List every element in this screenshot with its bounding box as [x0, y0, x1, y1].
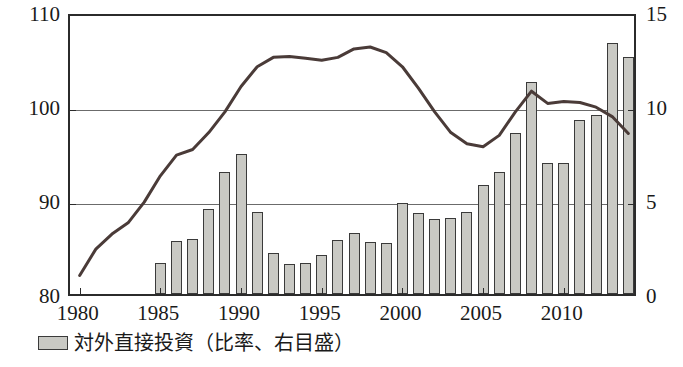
x-axis-tick	[80, 288, 81, 294]
y-axis-right-label: 15	[646, 4, 683, 25]
y-axis-right-label: 10	[646, 98, 683, 119]
plot-area	[68, 14, 636, 296]
y-axis-right-label: 5	[646, 192, 683, 213]
x-axis-label: 1985	[123, 303, 193, 324]
y-axis-left-label: 110	[4, 4, 60, 25]
x-axis-label: 2010	[527, 303, 597, 324]
x-axis-label: 1980	[43, 303, 113, 324]
x-axis-tick	[564, 288, 565, 294]
y-axis-left-tick	[70, 110, 76, 111]
legend-swatch-bar	[38, 336, 68, 350]
legend: 対外直接投資（比率、右目盛）	[38, 333, 354, 353]
y-axis-left-label: 90	[4, 192, 60, 213]
x-axis-label: 1990	[204, 303, 274, 324]
x-axis-tick	[241, 288, 242, 294]
y-axis-right-label: 0	[646, 286, 683, 307]
x-axis-label: 1995	[285, 303, 355, 324]
y-axis-left-tick	[70, 204, 76, 205]
x-axis-tick	[483, 288, 484, 294]
x-axis-tick	[402, 288, 403, 294]
x-axis-tick	[322, 288, 323, 294]
y-axis-left-label: 100	[4, 98, 60, 119]
x-axis-label: 2000	[365, 303, 435, 324]
x-axis-label: 2005	[446, 303, 516, 324]
chart-figure: 8090100110 051015 1980198519901995200020…	[0, 0, 683, 367]
y-axis-right-tick	[628, 110, 634, 111]
x-axis-tick	[160, 288, 161, 294]
legend-label-bar: 対外直接投資（比率、右目盛）	[74, 333, 354, 353]
y-axis-right-tick	[628, 204, 634, 205]
axis-ticks	[70, 16, 634, 294]
